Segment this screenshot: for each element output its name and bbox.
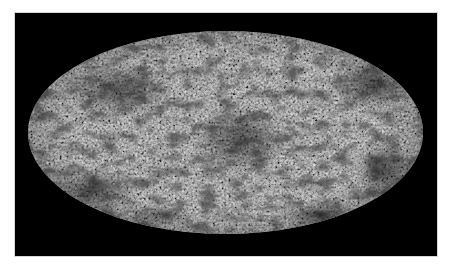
sky-map bbox=[0, 0, 452, 267]
sky-map-ellipse bbox=[28, 31, 423, 234]
